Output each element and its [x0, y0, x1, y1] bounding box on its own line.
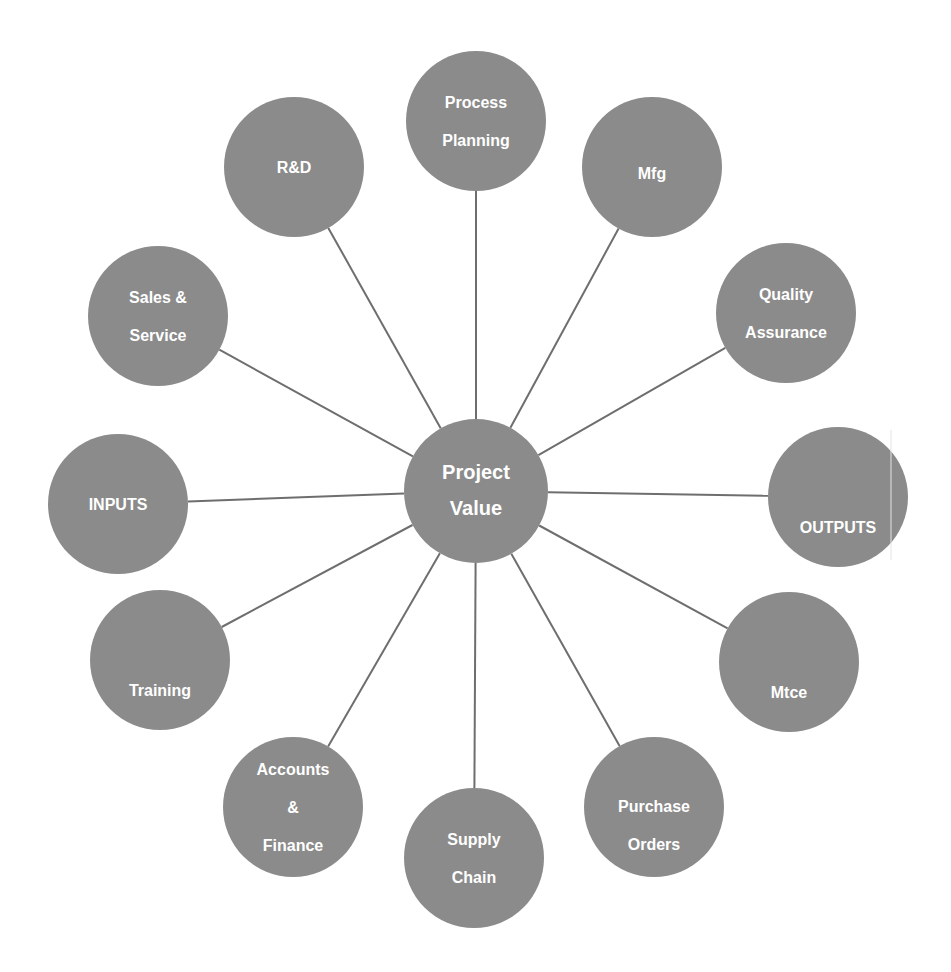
node-circle	[404, 788, 544, 928]
spoke-line-supply-chain	[474, 563, 475, 788]
node-label-line: Process	[445, 94, 507, 111]
node-label-line: Project	[442, 461, 510, 483]
node-label-line: Mtce	[771, 684, 808, 701]
spoke-line-training	[222, 525, 413, 627]
node-mtce: Mtce	[719, 592, 859, 732]
node-circle	[406, 51, 546, 191]
node-circle	[719, 592, 859, 732]
node-label-line: Orders	[628, 836, 681, 853]
node-label-line: Value	[450, 497, 502, 519]
node-mfg: Mfg	[582, 97, 722, 237]
node-process-planning: ProcessPlanning	[406, 51, 546, 191]
hub-spoke-diagram: ProcessPlanningMfgQualityAssuranceOUTPUT…	[0, 0, 951, 972]
node-label-line: Finance	[263, 837, 324, 854]
node-label-line: Training	[129, 682, 191, 699]
node-label-line: Mfg	[638, 165, 666, 182]
hub-node-project-value: ProjectValue	[404, 419, 548, 563]
node-label-line: Assurance	[745, 324, 827, 341]
node-label-line: Sales &	[129, 289, 187, 306]
node-outputs: OUTPUTS	[768, 427, 908, 567]
node-label-line: R&D	[277, 159, 312, 176]
spoke-line-accounts-finance	[328, 553, 440, 746]
node-label-line: Quality	[759, 286, 813, 303]
node-circle	[90, 590, 230, 730]
node-circle	[88, 246, 228, 386]
spoke-line-r-and-d	[328, 228, 440, 428]
node-label-line: Purchase	[618, 798, 690, 815]
node-purchase-orders: PurchaseOrders	[584, 737, 724, 877]
node-label-line: Accounts	[257, 761, 330, 778]
node-accounts-finance: Accounts&Finance	[223, 737, 363, 877]
hub-circle	[404, 419, 548, 563]
spoke-line-mfg	[510, 229, 618, 428]
node-label-line: OUTPUTS	[800, 519, 877, 536]
node-r-and-d: R&D	[224, 97, 364, 237]
spoke-line-inputs	[188, 494, 404, 502]
node-label-line: &	[287, 799, 299, 816]
node-quality-assurance: QualityAssurance	[716, 243, 856, 383]
spoke-line-sales-service	[219, 350, 413, 457]
spoke-line-purchase-orders	[511, 554, 619, 746]
node-supply-chain: SupplyChain	[404, 788, 544, 928]
node-label-line: INPUTS	[89, 496, 148, 513]
node-inputs: INPUTS	[48, 434, 188, 574]
node-label-line: Planning	[442, 132, 510, 149]
spoke-line-quality-assurance	[538, 348, 725, 455]
node-circle	[716, 243, 856, 383]
node-sales-service: Sales &Service	[88, 246, 228, 386]
node-circle	[768, 427, 908, 567]
node-label-line: Chain	[452, 869, 496, 886]
spoke-line-mtce	[539, 526, 727, 629]
node-label-line: Supply	[447, 831, 500, 848]
node-label-line: Service	[130, 327, 187, 344]
spoke-line-outputs	[548, 492, 768, 496]
node-training: Training	[90, 590, 230, 730]
